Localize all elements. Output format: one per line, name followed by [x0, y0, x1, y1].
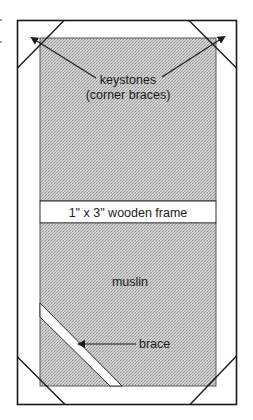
muslin-panel-lower	[40, 223, 216, 386]
edge-ticks	[0, 20, 2, 42]
brace-label: brace	[139, 337, 170, 351]
keystones-label: keystones	[100, 73, 156, 87]
muslin-label: muslin	[112, 275, 148, 289]
muslin-panel-upper	[40, 38, 216, 201]
corner-braces-label: (corner braces)	[86, 88, 171, 102]
flat-frame-diagram: keystones (corner braces) 1" x 3" wooden…	[0, 0, 253, 420]
frame-label: 1" x 3" wooden frame	[69, 206, 188, 220]
